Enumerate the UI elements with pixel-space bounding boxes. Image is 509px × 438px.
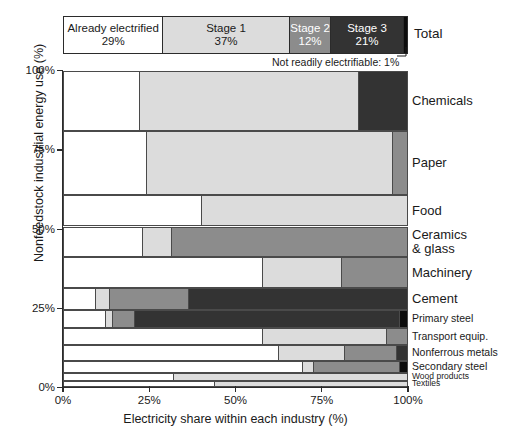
bar-segment-stage-1	[105, 311, 113, 328]
x-tick-label: 25%	[138, 394, 161, 406]
industry-label-ceramics-glass: Ceramics& glass	[412, 228, 467, 257]
bar-segment-stage-1	[146, 132, 393, 194]
bar-row-transport-equip	[63, 328, 408, 345]
bar-segment-already-electrified	[64, 346, 278, 360]
x-tick-mark	[149, 386, 150, 392]
footnote-leader-line	[397, 47, 407, 59]
industry-label-paper: Paper	[412, 156, 447, 170]
industry-label-chemicals: Chemicals	[412, 94, 473, 108]
legend-segment-value: 37%	[215, 35, 238, 48]
footnote-not-readily-electrifiable: Not readily electrifiable: 1%	[272, 56, 399, 68]
total-legend-bar: Already electrified29%Stage 137%Stage 21…	[63, 16, 408, 54]
bar-segment-stage-1	[302, 362, 313, 372]
legend-segment-stage-2: Stage 212%	[289, 17, 331, 53]
bar-segment-stage-1	[95, 289, 110, 309]
bar-segment-stage-2	[171, 228, 407, 257]
y-tick-mark	[57, 149, 63, 150]
industry-label-machinery: Machinery	[412, 265, 472, 279]
y-tick-label: 25%	[32, 302, 55, 314]
legend-segment-value: 12%	[299, 35, 322, 48]
bar-segment-stage-1	[214, 382, 407, 386]
bar-segment-stage-2	[109, 289, 188, 309]
marimekko-chart-figure: Already electrified29%Stage 137%Stage 21…	[0, 0, 509, 438]
bar-segment-stage-1	[278, 346, 344, 360]
bar-segment-not-readily-electrifiable	[399, 311, 407, 328]
bar-segment-stage-2	[313, 362, 399, 372]
bar-segment-already-electrified	[64, 132, 146, 194]
bar-row-primary-steel	[63, 310, 408, 329]
legend-segment-name: Stage 3	[347, 22, 387, 35]
y-axis-title: Nonfeedstock industrial energy use (%)	[32, 72, 46, 262]
industry-label-primary-steel: Primary steel	[412, 313, 473, 325]
bar-segment-stage-2	[392, 132, 407, 194]
bar-row-ceramics-glass	[63, 227, 408, 258]
plot-area	[63, 71, 408, 387]
bar-segment-stage-3	[134, 311, 399, 328]
bar-segment-stage-1	[262, 329, 386, 344]
bar-segment-stage-2	[344, 346, 396, 360]
legend-segment-stage-1: Stage 137%	[162, 17, 288, 53]
industry-label-transport-equip: Transport equip.	[412, 331, 488, 343]
legend-segment-stage-3: Stage 321%	[330, 17, 402, 53]
y-tick-mark	[57, 229, 63, 230]
bar-row-chemicals	[63, 71, 408, 131]
legend-segments: Already electrified29%Stage 137%Stage 21…	[63, 16, 408, 54]
industry-label-food: Food	[412, 204, 442, 218]
bar-segment-already-electrified	[64, 289, 95, 309]
bar-segment-already-electrified	[64, 362, 302, 372]
industry-label-cement: Cement	[412, 292, 458, 306]
bar-segment-stage-1	[262, 258, 341, 287]
bar-segment-already-electrified	[64, 311, 105, 328]
x-tick-mark	[321, 386, 322, 392]
bar-row-nonferrous-metals	[63, 345, 408, 361]
bar-segment-already-electrified	[64, 72, 139, 130]
x-axis-title: Electricity share within each industry (…	[62, 412, 409, 426]
bar-row-paper	[63, 131, 408, 195]
legend-segment-name: Stage 2	[290, 22, 330, 35]
bar-segment-already-electrified	[64, 228, 142, 257]
bar-segment-stage-1	[139, 72, 358, 130]
bar-segment-stage-1	[173, 374, 407, 380]
bar-segment-not-readily-electrifiable	[399, 362, 407, 372]
industry-labels: ChemicalsPaperFoodCeramics& glassMachine…	[412, 71, 509, 391]
bar-row-secondary-steel	[63, 361, 408, 373]
x-tick-mark	[235, 386, 236, 392]
bar-segment-stage-2	[386, 329, 407, 344]
x-tick-label: 75%	[310, 394, 333, 406]
legend-segment-already-electrified: Already electrified29%	[64, 17, 162, 53]
bar-row-cement	[63, 288, 408, 310]
y-tick-label: 0%	[38, 381, 55, 393]
bar-segment-stage-1	[201, 196, 407, 226]
bar-row-wood-products	[63, 373, 408, 381]
x-tick-mark	[407, 386, 408, 392]
bar-segment-stage-2	[112, 311, 133, 328]
x-tick-label: 0%	[55, 394, 72, 406]
industry-label-nonferrous-metals: Nonferrous metals	[412, 348, 498, 360]
bar-segment-stage-2	[341, 258, 407, 287]
bar-segment-already-electrified	[64, 258, 262, 287]
x-tick-label: 100%	[393, 394, 422, 406]
total-label: Total	[414, 26, 443, 41]
bar-row-machinery	[63, 257, 408, 288]
bar-segment-stage-3	[188, 289, 407, 309]
bar-segment-already-electrified	[64, 374, 173, 380]
legend-segment-name: Stage 1	[206, 22, 246, 35]
y-tick-labels: 100%75%50%25%0%	[0, 0, 55, 438]
x-tick-mark	[62, 386, 63, 392]
bar-segment-stage-3	[358, 72, 407, 130]
y-tick-mark	[57, 70, 63, 71]
bar-segment-already-electrified	[64, 329, 262, 344]
bar-segment-already-electrified	[64, 196, 201, 226]
bar-segment-stage-1	[142, 228, 170, 257]
y-tick-mark	[57, 308, 63, 309]
industry-label-textiles: Textiles	[412, 379, 440, 388]
legend-segment-value: 29%	[102, 35, 125, 48]
bar-segment-stage-3	[396, 346, 407, 360]
bar-row-food	[63, 195, 408, 227]
legend-segment-value: 21%	[356, 35, 379, 48]
legend-segment-name: Already electrified	[67, 22, 158, 35]
x-tick-label: 50%	[224, 394, 247, 406]
bar-segment-already-electrified	[64, 382, 214, 386]
